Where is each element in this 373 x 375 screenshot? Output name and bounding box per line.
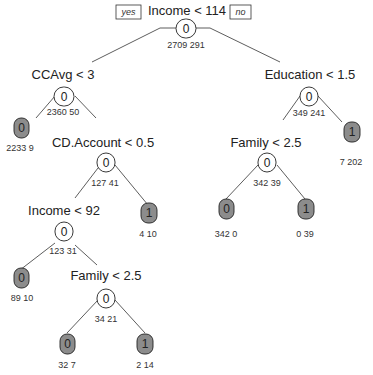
class-label: 0 [223,202,230,216]
node-ccavg: CCAvg < 3 0 2360 50 [32,67,95,117]
split-label: Education < 1.5 [265,67,356,82]
counts-label: 2233 9 [6,143,34,153]
counts-label: 2 14 [136,360,154,370]
counts-label: 349 241 [293,108,326,118]
node-family-left: Family < 2.5 0 34 21 [70,268,141,324]
split-label: Family < 2.5 [70,268,141,283]
split-label: CCAvg < 3 [32,67,95,82]
counts-label: 342 39 [253,178,281,188]
counts-label: 342 0 [215,229,238,239]
counts-label: 89 10 [11,293,34,303]
leaf-h: 1 7 202 [340,122,363,167]
leaf-c: 0 32 7 [58,334,76,370]
counts-label: 0 39 [296,229,314,239]
leaf-a: 0 2233 9 [6,118,34,153]
counts-label: 2360 50 [47,107,80,117]
no-label: no [235,7,245,17]
class-label: 0 [264,156,271,170]
split-label: CD.Account < 0.5 [52,135,154,150]
decision-tree: yes no Income < 114 0 2709 291 CCAvg < 3… [0,0,373,375]
class-label: 1 [142,337,149,351]
counts-label: 4 10 [139,229,157,239]
counts-label: 123 31 [49,246,77,256]
split-label: Family < 2.5 [230,135,301,150]
edge-root-ccavg [92,28,176,62]
class-label: 0 [61,225,68,239]
leaf-d: 1 2 14 [136,334,154,370]
leaf-e: 1 4 10 [139,203,157,239]
edge-root-education [196,28,280,62]
leaf-f: 0 342 0 [215,199,238,239]
edge-family-r-leaf-g [277,165,305,199]
split-label: Income < 92 [28,203,100,218]
counts-label: 32 7 [58,360,76,370]
class-label: 0 [103,292,110,306]
edge-income92-family-l [75,245,97,265]
class-label: 1 [146,206,153,220]
node-income92: Income < 92 0 123 31 [28,203,100,256]
node-root: yes no Income < 114 0 2709 291 [116,3,251,50]
counts-label: 2709 291 [167,40,205,50]
class-label: 0 [18,121,25,135]
node-education: Education < 1.5 0 349 241 [265,67,356,118]
class-label: 0 [306,90,313,104]
node-cdaccount: CD.Account < 0.5 0 127 41 [52,135,154,188]
split-label: Income < 114 [148,3,226,18]
leaf-b: 0 89 10 [11,268,34,303]
counts-label: 34 21 [95,314,118,324]
counts-label: 7 202 [340,157,363,167]
edge-cdaccount-leaf-e [115,165,148,205]
counts-label: 127 41 [91,178,119,188]
node-family-right: Family < 2.5 0 342 39 [230,135,301,188]
class-label: 0 [64,337,71,351]
class-label: 0 [103,156,110,170]
class-label: 0 [18,271,25,285]
edge-family-l-leaf-d [115,300,145,333]
class-label: 0 [183,22,190,36]
yes-label: yes [120,7,136,17]
leaf-g: 1 0 39 [296,199,314,239]
class-label: 0 [61,90,68,104]
class-label: 1 [349,125,356,139]
class-label: 1 [303,202,310,216]
edge-family-l-leaf-c [67,300,98,333]
